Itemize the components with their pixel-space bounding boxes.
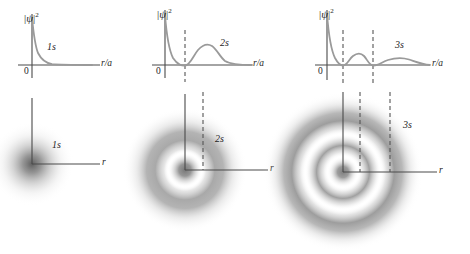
cloud-3s: 3s r	[285, 92, 470, 254]
x-axis-label-1s: r/a	[101, 59, 112, 69]
psi-exponent-2s: 2	[168, 7, 172, 15]
y-axis-label-3s: |ψ|2	[319, 8, 334, 20]
panel-2s: |ψ|2 2s r/a 0	[140, 0, 300, 254]
y-axis-label-2s: |ψ|2	[157, 8, 172, 20]
plot-1s-svg	[0, 0, 150, 95]
cloud-x-axis-label-1s: r	[102, 158, 106, 168]
panel-3s: |ψ|2 3s r/a 0	[285, 0, 470, 254]
plot-3s: |ψ|2 3s r/a 0	[285, 0, 470, 95]
psi-symbol-3s: ψ	[321, 8, 328, 20]
psi-symbol-2s: ψ	[159, 8, 166, 20]
plot-3s-svg	[285, 0, 470, 95]
origin-label-3s: 0	[318, 67, 323, 77]
curve-1s	[32, 18, 92, 65]
plot-1s: |ψ|2 1s r/a 0	[0, 0, 150, 95]
cloud-x-axis-label-3s: r	[439, 166, 443, 176]
panel-1s: |ψ|2 1s r/a 0 1s	[0, 0, 150, 254]
cloud-label-2s: 2s	[215, 134, 224, 144]
cloud-label-1s: 1s	[52, 140, 61, 150]
origin-label-1s: 0	[24, 67, 29, 77]
x-axis-label-2s: r/a	[253, 59, 264, 69]
y-axis-label-1s: |ψ|2	[24, 12, 39, 24]
curve-label-2s: 2s	[220, 38, 229, 48]
plot-2s: |ψ|2 2s r/a 0	[140, 0, 300, 95]
psi-exponent-1s: 2	[35, 11, 39, 19]
curve-label-3s: 3s	[395, 40, 404, 50]
psi-exponent-3s: 2	[330, 7, 334, 15]
psi-symbol-1s: ψ	[26, 12, 33, 24]
curve-label-1s: 1s	[47, 42, 56, 52]
x-axis-label-3s: r/a	[432, 59, 443, 69]
cloud-label-3s: 3s	[403, 120, 412, 130]
curve-2s	[165, 15, 252, 66]
origin-label-2s: 0	[156, 67, 161, 77]
orbital-probability-figure: |ψ|2 1s r/a 0 1s	[0, 0, 470, 254]
